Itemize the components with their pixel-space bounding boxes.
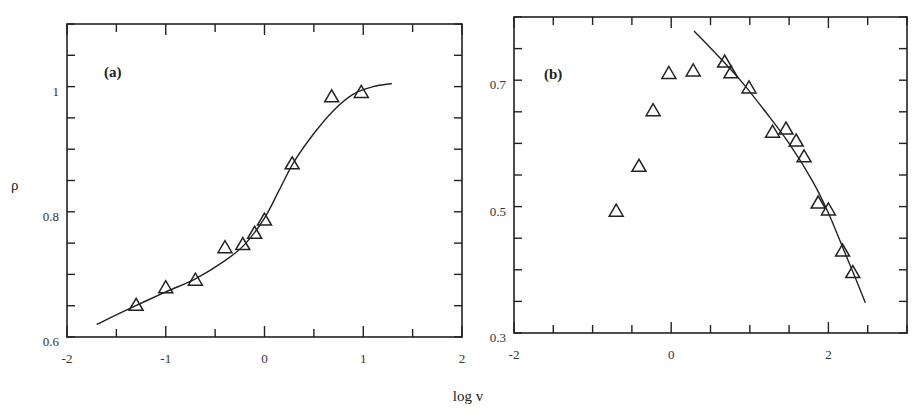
triangle-marker [285,157,299,169]
panel-b-fit-line [694,31,865,303]
y-axis-title: ρ [11,177,19,193]
x-axis-title: log v [453,388,484,404]
x-tick-label: 2 [825,347,832,362]
y-tick-label: 1 [53,84,60,99]
x-tick-label: -2 [509,347,520,362]
triangle-marker [797,150,811,162]
triangle-marker [632,159,646,171]
y-tick-label: 0.6 [43,334,60,349]
figure: ρ log v -2-10120.60.81 (a) -2020.30.50.7… [0,0,918,415]
panel-b-data-points [609,55,860,277]
triangle-marker [686,64,700,76]
panel-b-ticks [514,17,907,333]
x-tick-label: 0 [668,347,675,362]
y-tick-label: 0.8 [43,209,59,224]
y-tick-label: 0.7 [490,77,507,92]
x-tick-label: 1 [360,351,367,366]
y-tick-label: 0.5 [490,204,506,219]
triangle-marker [662,66,676,78]
x-tick-label: 2 [459,351,466,366]
triangle-marker [789,134,803,146]
panel-b-label: (b) [544,66,562,83]
triangle-marker [159,281,173,293]
triangle-marker [218,241,232,253]
panel-a-frame [67,24,462,337]
panel-a-tick-labels: -2-10120.60.81 [43,84,466,366]
triangle-marker [354,85,368,97]
x-tick-label: 0 [261,351,268,366]
x-tick-label: -2 [62,351,73,366]
triangle-marker [609,204,623,216]
panel-a-ticks [67,24,462,337]
triangle-marker [646,104,660,116]
panel-b-chart: -2020.30.50.7 (b) [490,17,907,362]
panel-a-data-points [129,85,368,310]
panel-a-chart: -2-10120.60.81 (a) [43,24,466,366]
triangle-marker [236,238,250,250]
triangle-marker [325,90,339,102]
panel-a-label: (a) [104,64,122,81]
panel-b-frame [514,17,907,333]
x-tick-label: -1 [160,351,171,366]
panel-a-fit-line [97,83,392,324]
panel-b-tick-labels: -2020.30.50.7 [490,77,832,362]
y-tick-label: 0.3 [490,330,506,345]
